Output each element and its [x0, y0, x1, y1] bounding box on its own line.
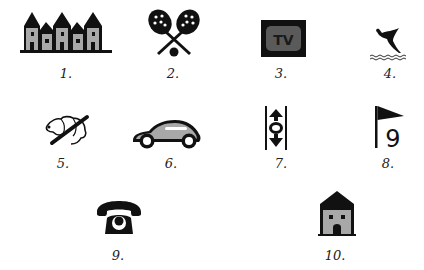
no-dogs-icon [43, 112, 91, 148]
tv-icon: TV [261, 20, 306, 57]
telephone-icon [96, 200, 142, 236]
car-icon [131, 118, 203, 150]
item-number-1: 1. [46, 66, 86, 81]
item-number-3: 3. [261, 66, 301, 81]
diver-water-icon [369, 25, 409, 61]
tv-text: TV [273, 32, 294, 48]
item-number-7: 7. [261, 156, 301, 171]
item-number-6: 6. [151, 156, 191, 171]
house-icon [318, 190, 356, 238]
item-number-5: 5. [43, 156, 83, 171]
golf-flag-9-icon: 9 [374, 106, 406, 150]
golf-number: 9 [385, 125, 400, 150]
item-number-9: 9. [98, 248, 138, 263]
tennis-rackets-icon [146, 8, 202, 58]
item-number-10: 10. [315, 248, 355, 263]
item-number-8: 8. [368, 156, 408, 171]
town-houses-icon [20, 10, 112, 55]
item-number-4: 4. [370, 66, 410, 81]
item-number-2: 2. [153, 66, 193, 81]
elevator-icon [265, 106, 287, 152]
